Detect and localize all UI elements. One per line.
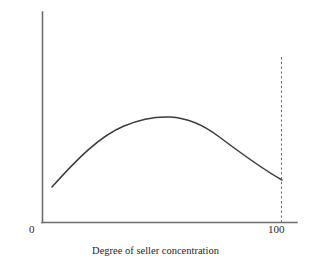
x-axis-tick-label-0: 0 <box>29 224 35 235</box>
advertising-sales-curve <box>52 117 282 187</box>
x-axis-title: Degree of seller concentration <box>0 245 311 257</box>
chart-figure: 0 100 Degree of seller concentration Adv… <box>0 0 311 269</box>
chart-plot-area <box>0 0 311 269</box>
x-axis-tick-label-100: 100 <box>268 224 285 235</box>
